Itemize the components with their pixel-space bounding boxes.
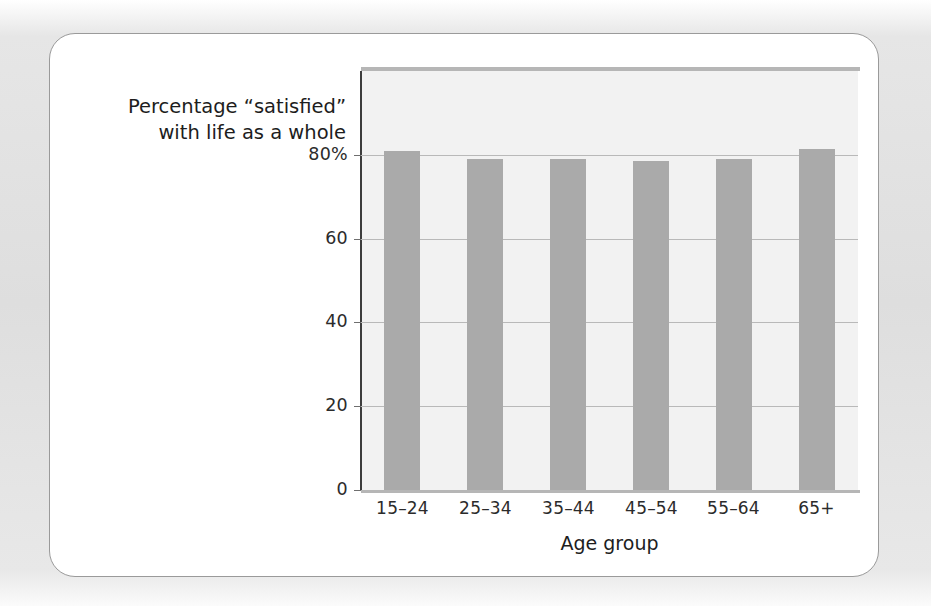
y-tick-label: 80%	[278, 144, 348, 166]
y-axis-title-line2: with life as a whole	[68, 120, 346, 146]
y-tick-label-text: 0	[288, 479, 348, 499]
bar	[633, 161, 669, 490]
y-tick-mark	[354, 406, 361, 407]
y-tick-label-text: 60	[288, 228, 348, 248]
gridline	[361, 406, 858, 407]
gridline	[361, 239, 858, 240]
y-tick-label: 60	[278, 228, 348, 250]
x-tick-label: 15–24	[361, 498, 444, 518]
gridline	[361, 155, 858, 156]
y-axis-title-line1: Percentage “satisfied”	[128, 95, 346, 118]
gridline	[361, 322, 858, 323]
x-tick-label: 45–54	[610, 498, 693, 518]
y-tick-label-text: 80%	[288, 144, 348, 164]
y-tick-label-text: 20	[288, 395, 348, 415]
bar-chart: Percentage “satisfied” with life as a wh…	[50, 34, 880, 578]
figure-card: Percentage “satisfied” with life as a wh…	[49, 33, 879, 577]
y-axis-title: Percentage “satisfied” with life as a wh…	[68, 94, 346, 146]
y-tick-mark	[354, 239, 361, 240]
x-tick-label: 25–34	[444, 498, 527, 518]
x-tick-label: 65+	[775, 498, 858, 518]
y-tick-mark	[354, 155, 361, 156]
y-axis-spine	[360, 71, 362, 491]
y-tick-mark	[354, 322, 361, 323]
bar	[716, 159, 752, 490]
x-tick-label: 35–44	[527, 498, 610, 518]
plot-area	[361, 71, 858, 490]
x-axis-title: Age group	[361, 532, 858, 554]
x-axis-spine	[361, 490, 860, 493]
y-tick-label: 40	[278, 311, 348, 333]
bar	[467, 159, 503, 490]
x-tick-label: 55–64	[692, 498, 775, 518]
y-tick-label: 0	[278, 479, 348, 501]
bar	[384, 151, 420, 490]
bar	[550, 159, 586, 490]
bar	[799, 149, 835, 490]
y-tick-label-text: 40	[288, 311, 348, 331]
screenshot-root: Percentage “satisfied” with life as a wh…	[0, 0, 931, 606]
y-tick-label: 20	[278, 395, 348, 417]
y-tick-mark	[354, 490, 361, 491]
